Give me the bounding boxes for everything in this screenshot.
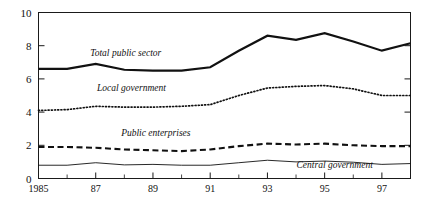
series-line-public-enterprises	[39, 144, 411, 151]
series-line-local-government	[39, 86, 411, 111]
x-tick-label: 91	[205, 183, 215, 194]
x-tick-label: 89	[148, 183, 158, 194]
y-tick-label: 4	[26, 106, 32, 118]
series-label: Local government	[96, 83, 166, 93]
x-tick-label: 97	[377, 183, 387, 194]
x-tick-label: 95	[320, 183, 330, 194]
y-tick-label: 2	[26, 139, 32, 151]
series-label: Central government	[297, 160, 374, 170]
y-tick-label: 10	[21, 7, 33, 19]
chart-screen: 02468101985878991939597Total public sect…	[0, 0, 435, 209]
plot-frame	[39, 13, 411, 179]
y-tick-label: 8	[26, 40, 32, 52]
y-tick-label: 6	[26, 73, 32, 85]
series-label: Public enterprises	[120, 128, 191, 138]
line-chart: 02468101985878991939597Total public sect…	[0, 0, 435, 209]
x-tick-label: 1985	[29, 183, 49, 194]
x-tick-label: 93	[262, 183, 272, 194]
x-tick-label: 87	[91, 183, 101, 194]
series-label: Total public sector	[90, 48, 161, 58]
